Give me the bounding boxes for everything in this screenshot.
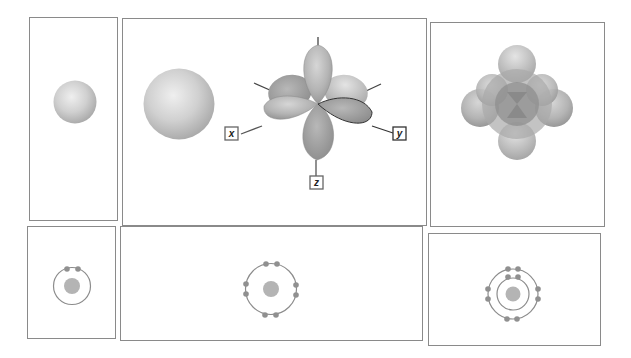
combined-orbitals [461,45,573,160]
x-axis-label: x [225,127,238,140]
svg-text:z: z [313,177,319,188]
2s-orbital-sphere [144,69,215,140]
shell-model-neon [485,266,541,322]
z-axis-label: z [310,176,323,189]
1s-orbital-sphere [54,81,97,124]
svg-text:y: y [396,128,403,139]
diagram-canvas: x y z [0,0,631,358]
svg-text:x: x [228,128,235,139]
shell-model-first [54,266,91,304]
2p-orbitals [241,37,393,176]
y-axis-label: y [393,127,406,140]
shell-model-second [243,261,299,318]
